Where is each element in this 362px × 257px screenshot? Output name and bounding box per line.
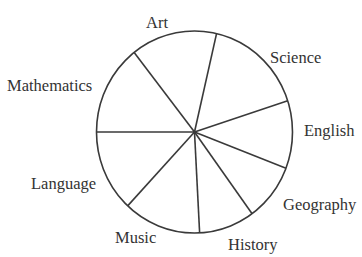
label-english: English [304,121,355,140]
pie-chart: Mathematics Art Science English Geograph… [0,0,362,257]
pie-center-dot [193,130,196,133]
label-science: Science [270,48,321,67]
label-geography: Geography [283,195,357,214]
label-art: Art [146,13,168,32]
label-history: History [228,235,278,254]
label-language: Language [31,174,96,193]
label-mathematics: Mathematics [7,76,92,95]
label-music: Music [115,228,156,247]
